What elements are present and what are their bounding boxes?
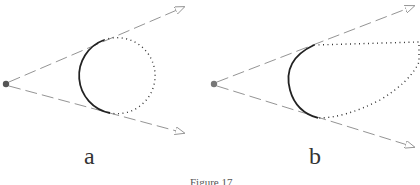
hidden-arc [104,38,155,114]
hidden-boundary [314,42,419,118]
lower-ray [9,86,184,133]
visible-arc [288,45,318,118]
panel-a [3,7,184,133]
figure-caption: Figure 17 [190,176,232,185]
panel-label-a: a [84,143,95,170]
upper-ray [217,6,414,82]
viewpoint-icon [3,81,9,87]
figure: a b Figure 17 [0,0,420,185]
panel-b [211,6,419,147]
visible-arc [79,40,110,113]
diagram-svg [0,0,420,185]
panel-label-b: b [309,143,321,170]
viewpoint-icon [211,81,217,87]
